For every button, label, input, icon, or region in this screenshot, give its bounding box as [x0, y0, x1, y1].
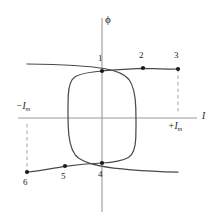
- point-label-2: 2: [139, 51, 144, 60]
- point-marker-4: [100, 161, 104, 165]
- hysteresis-loop-figure: 1 2 3 4 5 6 ϕ I −Im +Im: [0, 0, 217, 222]
- x-axis-negative-im-prefix: −I: [16, 101, 26, 111]
- hysteresis-loop-svg: [0, 0, 217, 222]
- x-axis-label: I: [202, 112, 205, 122]
- point-marker-3: [176, 67, 180, 71]
- point-label-6: 6: [23, 178, 28, 187]
- x-axis-negative-im-subscript: m: [26, 105, 31, 112]
- point-label-5: 5: [61, 172, 66, 181]
- point-marker-2: [141, 66, 145, 70]
- upper-branch-path: [68, 68, 178, 172]
- x-axis-positive-im-prefix: +I: [168, 121, 178, 131]
- point-marker-5: [63, 164, 67, 168]
- point-marker-6: [25, 170, 29, 174]
- x-axis-positive-im-label: +Im: [168, 122, 182, 132]
- point-marker-1: [100, 69, 104, 73]
- point-label-3: 3: [174, 51, 179, 60]
- axes-group: [18, 18, 197, 212]
- x-axis-positive-im-subscript: m: [178, 125, 183, 132]
- x-axis-negative-im-label: −Im: [16, 102, 30, 112]
- point-label-1: 1: [98, 54, 103, 63]
- y-axis-label: ϕ: [105, 14, 111, 25]
- point-label-4: 4: [98, 170, 103, 179]
